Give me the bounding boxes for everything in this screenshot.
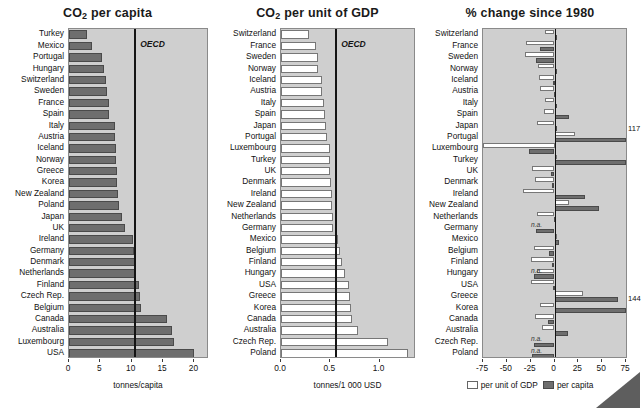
category-label: France: [38, 98, 64, 106]
bar-canada: [69, 315, 167, 323]
category-label: Turkey: [453, 155, 478, 163]
category-label: Norway: [36, 155, 64, 163]
bar-usa: [69, 349, 194, 357]
bar-netherlands: [281, 213, 333, 221]
category-label: Portugal: [447, 132, 478, 140]
x-tick-label: 5: [97, 363, 102, 373]
panel-2-axis-title: tonnes/1 000 USD: [280, 380, 415, 390]
bar-greece: [69, 167, 117, 175]
x-tick: [554, 359, 555, 362]
panel-2-x-axis: 0.00.51.0: [280, 359, 415, 375]
bar-denmark: [69, 258, 135, 266]
category-label: Hungary: [245, 268, 276, 276]
bar-luxembourg: [281, 144, 330, 152]
category-label: Hungary: [447, 268, 478, 276]
category-label: Italy: [49, 121, 64, 129]
panel-3-plot-area: n.a.n.a.n.a.n.a.: [482, 28, 627, 358]
bar-denmark-per-unit-of-gdp: [535, 177, 554, 182]
x-tick: [162, 359, 163, 362]
category-label: Luxembourg: [18, 337, 64, 345]
x-tick: [131, 359, 132, 362]
category-label: Poland: [452, 348, 478, 356]
bar-hungary-per-capita: [534, 274, 555, 279]
category-label: Hungary: [33, 64, 64, 72]
category-label: Spain: [457, 109, 478, 117]
bar-italy-per-unit-of-gdp: [545, 98, 555, 103]
category-label: Turkey: [251, 155, 276, 163]
category-label: Belgium: [448, 246, 478, 254]
category-label: Japan: [41, 212, 64, 220]
bar-austria: [281, 87, 322, 95]
category-label: Australia: [32, 325, 64, 333]
oecd-reference-line: [335, 29, 336, 357]
bar-poland: [69, 201, 119, 209]
x-tick: [482, 359, 483, 362]
category-label: Spain: [255, 109, 276, 117]
category-label: Korea: [456, 303, 478, 311]
bar-korea-per-unit-of-gdp: [540, 303, 554, 308]
bar-belgium: [69, 304, 141, 312]
bar-hungary: [69, 65, 104, 73]
bar-spain-per-capita: [555, 115, 569, 120]
na-marker-poland: n.a.: [531, 347, 542, 354]
category-label: Czech Rep.: [233, 337, 276, 345]
bar-poland: [281, 349, 408, 357]
category-label: Switzerland: [21, 75, 64, 83]
na-marker-germany: n.a.: [531, 221, 542, 228]
value-annotation-korea: 144: [628, 294, 641, 303]
category-label: Czech Rep.: [435, 337, 478, 345]
category-label: Canada: [449, 314, 478, 322]
bar-luxembourg: [69, 338, 174, 346]
bar-portugal-per-unit-of-gdp: [555, 132, 576, 137]
x-tick-label: -50: [500, 363, 512, 373]
bar-portugal: [281, 133, 327, 141]
category-label: Greece: [451, 291, 478, 299]
bar-denmark: [281, 178, 331, 186]
bar-australia-per-capita: [555, 331, 568, 336]
x-tick: [577, 359, 578, 362]
x-tick: [193, 359, 194, 362]
bar-sweden-per-unit-of-gdp: [525, 52, 555, 57]
legend-swatch-dark: [543, 381, 554, 389]
category-label: Norway: [248, 64, 276, 72]
bar-switzerland-per-unit-of-gdp: [545, 30, 555, 35]
bar-finland-per-unit-of-gdp: [531, 257, 555, 262]
category-label: Austria: [452, 86, 478, 94]
bar-iceland: [69, 144, 116, 152]
x-tick: [329, 359, 330, 362]
category-label: Denmark: [444, 177, 478, 185]
category-label: Netherlands: [231, 212, 276, 220]
panel-co2-per-gdp: CO2 per unit of GDP SwitzerlandFranceSwe…: [215, 0, 420, 408]
bar-japan: [281, 122, 326, 130]
category-label: Australia: [244, 325, 276, 333]
category-label: Austria: [38, 132, 64, 140]
category-label: Germany: [444, 223, 478, 231]
bar-greece: [281, 292, 350, 300]
bar-ireland-per-capita: [555, 195, 586, 200]
category-label: Ireland: [251, 189, 276, 197]
panel-1-x-axis: 05101520: [68, 359, 208, 375]
panel-2-plot-area: OECD: [280, 28, 415, 358]
category-label: Spain: [43, 109, 64, 117]
x-tick: [99, 359, 100, 362]
category-label: UK: [52, 223, 64, 231]
bar-new-zealand: [69, 190, 118, 198]
x-tick-label: -25: [524, 363, 536, 373]
category-label: Poland: [250, 348, 276, 356]
category-label: Mexico: [452, 234, 478, 242]
x-tick-label: 0.5: [323, 363, 335, 373]
category-label: France: [250, 41, 276, 49]
category-label: USA: [461, 280, 478, 288]
bar-switzerland: [281, 30, 309, 38]
bar-france: [69, 99, 109, 107]
bar-netherlands-per-unit-of-gdp: [537, 212, 554, 217]
category-label: USA: [259, 280, 276, 288]
category-label: Australia: [446, 325, 478, 333]
x-tick: [506, 359, 507, 362]
bar-italy: [69, 122, 115, 130]
category-label: Greece: [37, 166, 64, 174]
panel-2-category-labels: SwitzerlandFranceSwedenNorwayIcelandAust…: [215, 0, 278, 408]
value-annotation-portugal: 117: [628, 124, 640, 133]
x-tick-label: 0: [551, 363, 556, 373]
bar-switzerland: [69, 76, 106, 84]
